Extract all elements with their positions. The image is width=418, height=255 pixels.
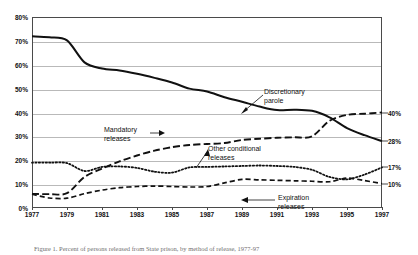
x-axis-tick-1993: 1993 xyxy=(305,211,319,218)
y-axis-tick-70%: 70% xyxy=(2,37,28,44)
annotation-discretionary-parole: Discretionary parole xyxy=(264,88,305,105)
x-axis-tick-1997: 1997 xyxy=(375,211,389,218)
x-axis-tick-1983: 1983 xyxy=(130,211,144,218)
x-axis-tickmark-1997 xyxy=(382,207,383,210)
right-axis-tickmark-10% xyxy=(382,184,388,185)
x-axis-tick-1991: 1991 xyxy=(270,211,284,218)
x-axis-tick-1995: 1995 xyxy=(340,211,354,218)
right-axis-label-40%: 40% xyxy=(388,109,401,116)
y-axis-tick-80%: 80% xyxy=(2,14,28,21)
annotation-line-1: Other conditional xyxy=(208,145,261,154)
right-axis-tickmark-17% xyxy=(382,167,388,168)
x-axis-tick-1981: 1981 xyxy=(95,211,109,218)
y-axis-tick-50%: 50% xyxy=(2,85,28,92)
annotation-line-1: Discretionary xyxy=(264,88,305,97)
annotation-line-2: releases xyxy=(104,135,137,144)
y-axis-tick-30%: 30% xyxy=(2,133,28,140)
right-axis-tickmark-28% xyxy=(382,141,388,142)
x-axis-tick-1977: 1977 xyxy=(25,211,39,218)
annotation-line-1: Expiration xyxy=(278,194,309,203)
right-axis-label-28%: 28% xyxy=(388,138,401,145)
annotation-line-2: releases xyxy=(208,154,261,163)
figure-caption: Figure 1. Percent of persons released fr… xyxy=(34,245,364,255)
x-axis-tickmark-1983 xyxy=(137,207,138,210)
annotation-expiration-releases: Expiration releases xyxy=(278,194,309,211)
x-axis-tick-1989: 1989 xyxy=(235,211,249,218)
x-axis-tickmark-1995 xyxy=(347,207,348,210)
x-axis-tickmark-1977 xyxy=(32,207,33,210)
x-axis-tickmark-1987 xyxy=(207,207,208,210)
x-axis-tick-1985: 1985 xyxy=(165,211,179,218)
x-axis-tickmark-1979 xyxy=(67,207,68,210)
annotation-mandatory-releases: Mandatory releases xyxy=(104,126,137,143)
right-axis-tickmark-40% xyxy=(382,112,388,113)
x-axis-tickmark-1981 xyxy=(102,207,103,210)
axis-labels-layer: 0%10%20%30%40%50%60%70%80%40%28%17%10%19… xyxy=(0,0,418,255)
x-axis-tickmark-1989 xyxy=(242,207,243,210)
figure-release-methods: 0%10%20%30%40%50%60%70%80%40%28%17%10%19… xyxy=(0,0,418,255)
x-axis-tickmark-1985 xyxy=(172,207,173,210)
y-axis-tick-10%: 10% xyxy=(2,181,28,188)
x-axis-tickmark-1993 xyxy=(312,207,313,210)
y-axis-tick-20%: 20% xyxy=(2,157,28,164)
annotation-line-2: releases xyxy=(278,203,309,212)
y-axis-tick-40%: 40% xyxy=(2,109,28,116)
right-axis-label-10%: 10% xyxy=(388,181,401,188)
right-axis-label-17%: 17% xyxy=(388,164,401,171)
annotation-other-conditional-releases: Other conditional releases xyxy=(208,145,261,162)
x-axis-tick-1979: 1979 xyxy=(60,211,74,218)
annotation-line-2: parole xyxy=(264,97,305,106)
y-axis-tick-60%: 60% xyxy=(2,61,28,68)
annotation-line-1: Mandatory xyxy=(104,126,137,135)
x-axis-tick-1987: 1987 xyxy=(200,211,214,218)
